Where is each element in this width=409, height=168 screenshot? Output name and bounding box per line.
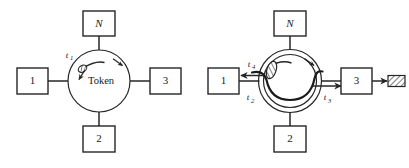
right-diagram-group: t 4 t 2 t 3 N 1 3 <box>208 11 405 152</box>
station-box-1: 1 <box>208 68 239 94</box>
station-box-1: 1 <box>17 68 48 94</box>
station-box-3: 3 <box>150 68 181 94</box>
station-box-2-label: 2 <box>287 132 293 144</box>
station-box-N-label: N <box>285 17 294 29</box>
time-label-t3-base: t <box>324 92 327 102</box>
time-label-t2-sub: 2 <box>251 97 255 104</box>
station-box-3: 3 <box>341 68 372 94</box>
time-label-t3-sub: 3 <box>327 97 332 104</box>
time-label-t4: t 4 <box>248 59 256 71</box>
station-box-N: N <box>83 11 115 36</box>
time-label-t1-sub: 1 <box>70 54 73 61</box>
time-label-t4-sub: 4 <box>252 63 256 70</box>
time-label-t3: t 3 <box>324 92 332 104</box>
figure-token-ring: Token t 1 N 1 3 2 <box>0 0 409 168</box>
station-box-1-label: 1 <box>221 74 227 86</box>
station-box-2: 2 <box>274 126 306 152</box>
time-label-t1: t 1 <box>66 50 74 62</box>
hatched-frame-icon <box>388 76 405 87</box>
station-box-3-label: 3 <box>354 74 360 86</box>
time-label-t2: t 2 <box>247 92 255 104</box>
time-label-t4-base: t <box>248 59 251 69</box>
ring-token-label: Token <box>88 75 115 86</box>
diagram-canvas: Token t 1 N 1 3 2 <box>0 0 409 168</box>
station-box-N: N <box>274 11 306 36</box>
left-diagram-group: Token t 1 N 1 3 2 <box>17 11 181 152</box>
time-label-t2-base: t <box>247 92 250 102</box>
station-box-2-label: 2 <box>96 132 102 144</box>
station-box-3-label: 3 <box>163 74 169 86</box>
time-label-t1-base: t <box>66 50 69 60</box>
station-box-N-label: N <box>94 17 103 29</box>
station-box-1-label: 1 <box>30 74 36 86</box>
station-box-2: 2 <box>83 126 115 152</box>
